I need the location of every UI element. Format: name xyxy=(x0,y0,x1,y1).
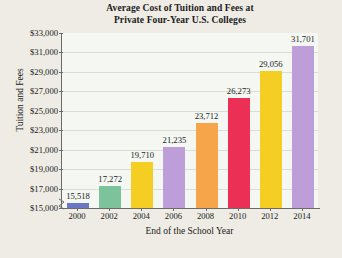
y-axis-tick-label: $33,000 xyxy=(14,28,58,38)
bar-2006[interactable]: 21,235 xyxy=(163,147,185,208)
y-axis-tick-label: $23,000 xyxy=(14,125,58,135)
y-axis-tick-labels: $15,000$17,000$19,000$21,000$23,000$25,0… xyxy=(14,29,58,209)
y-axis-tick-mark xyxy=(59,150,63,151)
chart-title: Average Cost of Tuition and Fees at Priv… xyxy=(55,2,305,26)
bar-value-label: 19,710 xyxy=(130,150,154,160)
y-axis-tick-mark xyxy=(59,72,63,73)
y-axis-break-zigzag-icon xyxy=(57,198,67,210)
y-axis-tick-label: $17,000 xyxy=(14,184,58,194)
x-axis-line xyxy=(61,208,320,209)
y-axis-tick-label: $31,000 xyxy=(14,47,58,57)
bar-value-label: 23,712 xyxy=(195,111,219,121)
bar-value-label: 17,272 xyxy=(98,174,122,184)
y-axis-tick-label: $25,000 xyxy=(14,106,58,116)
y-axis-tick-label: $19,000 xyxy=(14,164,58,174)
chart-title-line-2: Private Four-Year U.S. Colleges xyxy=(55,14,305,26)
gridline xyxy=(62,52,318,53)
x-axis-title: End of the School Year xyxy=(61,226,318,236)
y-axis-tick-mark xyxy=(59,111,63,112)
y-axis-tick-label: $29,000 xyxy=(14,67,58,77)
bar-2004[interactable]: 19,710 xyxy=(131,162,153,208)
bar-2008[interactable]: 23,712 xyxy=(196,123,218,208)
y-axis-tick-mark xyxy=(59,169,63,170)
y-axis-tick-mark xyxy=(59,91,63,92)
bar-2014[interactable]: 31,701 xyxy=(292,46,314,208)
chart-title-line-1: Average Cost of Tuition and Fees at xyxy=(55,2,305,14)
plot-area: 15,51817,27219,71021,23523,71226,27329,0… xyxy=(61,33,318,208)
bar-value-label: 21,235 xyxy=(163,135,187,145)
bar-value-label: 26,273 xyxy=(227,86,251,96)
y-axis-tick-label: $27,000 xyxy=(14,86,58,96)
bar-value-label: 29,056 xyxy=(259,59,283,69)
bar-2010[interactable]: 26,273 xyxy=(228,98,250,208)
y-axis-tick-mark xyxy=(59,189,63,190)
y-axis-tick-label: $21,000 xyxy=(14,145,58,155)
y-axis-tick-mark xyxy=(59,130,63,131)
bar-value-label: 15,518 xyxy=(66,191,90,201)
bar-2002[interactable]: 17,272 xyxy=(99,186,121,208)
bar-value-label: 31,701 xyxy=(291,34,315,44)
x-axis-tick-label-2014: 2014 xyxy=(282,211,322,221)
y-axis-tick-label: $15,000 xyxy=(14,203,58,213)
chart-figure: Average Cost of Tuition and Fees at Priv… xyxy=(0,0,342,258)
y-axis-tick-mark xyxy=(59,52,63,53)
y-axis-tick-mark xyxy=(59,33,63,34)
bar-2012[interactable]: 29,056 xyxy=(260,71,282,208)
